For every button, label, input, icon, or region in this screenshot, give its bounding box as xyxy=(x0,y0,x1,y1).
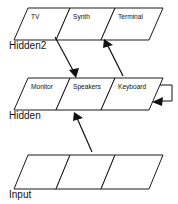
layer-hidden2: TV Synth Terminal Hidden2 xyxy=(9,8,163,51)
connection-synth-to-speakers xyxy=(55,37,79,78)
network-diagram: TV Synth Terminal Hidden2 Monitor Speake… xyxy=(0,0,178,204)
diagram-canvas: TV Synth Terminal Hidden2 Monitor Speake… xyxy=(0,0,178,204)
cell-label-terminal: Terminal xyxy=(118,13,143,20)
edge-line-input-speakers xyxy=(77,118,92,152)
layer-label-hidden2: Hidden2 xyxy=(9,40,47,51)
cell-label-speakers: Speakers xyxy=(73,83,102,91)
arrowhead-synth-speakers xyxy=(69,68,79,78)
layer-label-hidden: Hidden xyxy=(9,110,41,121)
edge-line-synth-speakers xyxy=(55,37,75,74)
connection-input-to-speakers xyxy=(73,112,92,152)
cell-label-tv: TV xyxy=(31,13,40,20)
layer-input: Input xyxy=(9,155,163,200)
cell-label-synth: Synth xyxy=(73,13,90,21)
connection-keyboard-to-terminal xyxy=(103,39,123,76)
layer-hidden: Monitor Speakers Keyboard Hidden xyxy=(9,78,163,121)
cell-label-monitor: Monitor xyxy=(31,83,54,90)
cell-label-keyboard: Keyboard xyxy=(118,83,147,91)
edge-line-keyboard-terminal xyxy=(107,44,123,76)
layer-label-input: Input xyxy=(9,189,31,200)
